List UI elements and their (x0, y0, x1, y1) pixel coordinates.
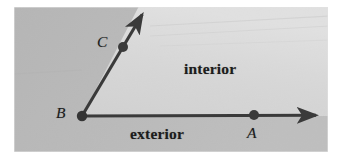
angle-figure: B C A interior exterior (0, 0, 337, 162)
label-point-b: B (56, 105, 65, 121)
label-exterior-region: exterior (130, 126, 184, 142)
point-a (249, 110, 259, 120)
vertex-point-b (77, 111, 87, 121)
label-interior-region: interior (184, 61, 236, 77)
label-point-a: A (247, 125, 256, 141)
ray-ba (82, 115, 316, 116)
point-c (118, 42, 128, 52)
label-point-c: C (97, 34, 107, 50)
